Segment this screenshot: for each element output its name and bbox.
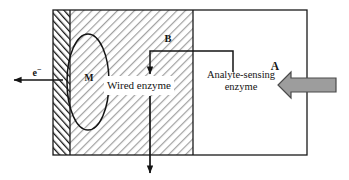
electron-label: e−: [27, 66, 47, 79]
species-b-label: B: [161, 33, 175, 45]
mediator-label: M: [80, 73, 98, 84]
schematic-svg: [0, 0, 349, 180]
diagram-canvas: Wired enzyme Analyte-sensing enzyme A B …: [0, 0, 349, 180]
electron-charge-sign: −: [37, 65, 42, 74]
wired-enzyme-label: Wired enzyme: [104, 76, 174, 95]
species-a-label: A: [264, 60, 286, 73]
